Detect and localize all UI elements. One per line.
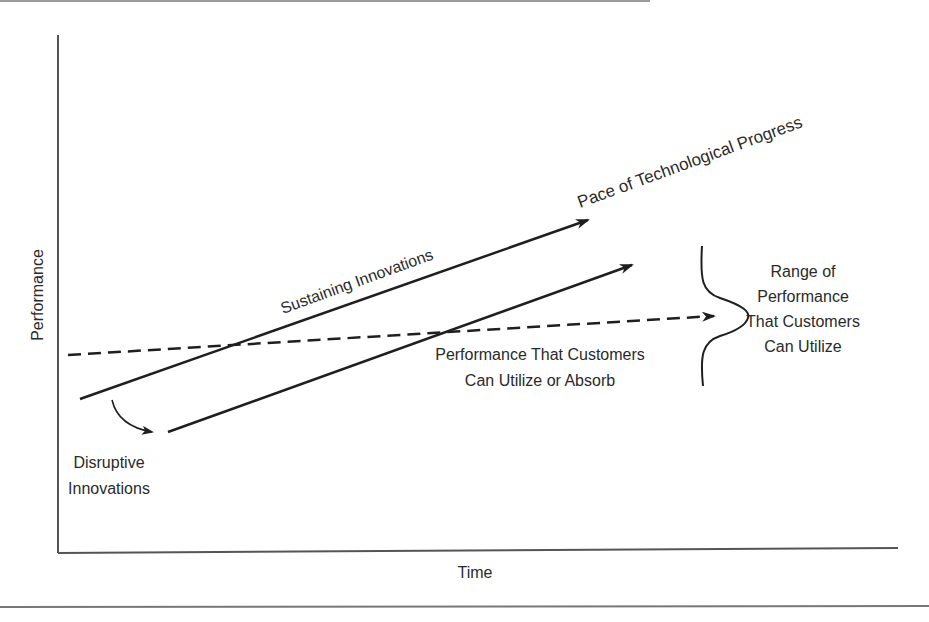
range-label-line3: That Customers <box>746 313 860 330</box>
disruptive-label-line1: Disruptive <box>73 454 144 471</box>
customer-utilize-label-line2: Can Utilize or Absorb <box>465 372 615 389</box>
disruptive-label-line2: Innovations <box>68 480 150 497</box>
disruptive-innovation-diagram: Performance Time Pace of Technological P… <box>0 0 929 622</box>
y-axis-label: Performance <box>29 249 46 341</box>
range-label-line1: Range of <box>771 263 836 280</box>
x-axis-label: Time <box>458 564 493 581</box>
range-label-line4: Can Utilize <box>764 338 841 355</box>
customer-utilize-label-line1: Performance That Customers <box>435 346 645 363</box>
bottom-rule <box>0 606 929 607</box>
disruptive-curve-arrow <box>112 400 152 432</box>
range-label-line2: Performance <box>757 288 849 305</box>
pace-of-progress-label: Pace of Technological Progress <box>575 113 805 212</box>
x-axis <box>58 548 898 553</box>
